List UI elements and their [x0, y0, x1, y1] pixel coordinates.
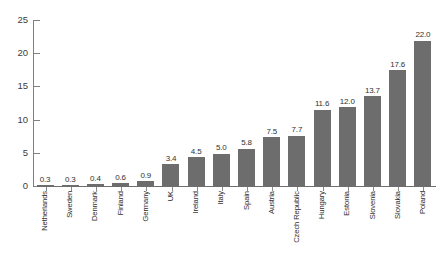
bar-value-label: 5.0 — [207, 143, 235, 152]
x-axis-category-label: Slovakia — [386, 191, 410, 261]
category-label-text: Estonia — [343, 191, 351, 216]
x-axis-category-label: Hungary — [310, 191, 334, 261]
x-axis-category-label: Austria — [260, 191, 284, 261]
bar[interactable] — [238, 149, 255, 188]
category-label-text: Germany — [142, 191, 150, 222]
bar-slot: 0.6 — [109, 21, 133, 187]
category-label-text: UK — [167, 191, 175, 201]
bar[interactable] — [314, 110, 331, 187]
bar-slot: 3.4 — [159, 21, 183, 187]
bar-value-label: 7.5 — [258, 127, 286, 136]
category-label-text: Italy — [217, 191, 225, 204]
x-axis-category-label: Poland — [411, 191, 435, 261]
bar-slot: 0.3 — [58, 21, 82, 187]
bar-value-label: 0.3 — [56, 175, 84, 184]
y-axis-tick-label: 0 — [6, 181, 28, 191]
bar-slot: 0.4 — [83, 21, 107, 187]
y-axis-tick-label: 10 — [6, 115, 28, 125]
bar-slot: 7.5 — [260, 21, 284, 187]
bar-value-label: 12.0 — [333, 97, 361, 106]
y-axis-tick-label: 20 — [6, 48, 28, 58]
category-label-text: Slovakia — [394, 191, 402, 219]
bar-value-label: 0.4 — [81, 174, 109, 183]
bar[interactable] — [188, 157, 205, 187]
x-axis-category-label: UK — [159, 191, 183, 261]
x-axis-category-label: Spain — [235, 191, 259, 261]
bar[interactable] — [213, 154, 230, 187]
bar-value-label: 7.7 — [283, 125, 311, 134]
bar-slot: 13.7 — [360, 21, 384, 187]
bar-slot: 7.7 — [285, 21, 309, 187]
bar-value-label: 5.8 — [233, 138, 261, 147]
bar-value-label: 13.7 — [358, 86, 386, 95]
bar-slot: 11.6 — [310, 21, 334, 187]
y-axis-tick-label: 5 — [6, 148, 28, 158]
bar[interactable] — [389, 70, 406, 187]
bar-value-label: 0.6 — [107, 173, 135, 182]
bar-value-label: 22.0 — [409, 30, 437, 39]
x-axis-category-label: Denmark — [83, 191, 107, 261]
bar-value-label: 17.6 — [384, 60, 412, 69]
bars-container: 0.30.30.40.60.93.44.55.05.87.57.711.612.… — [33, 20, 436, 187]
bar-slot: 5.0 — [209, 21, 233, 187]
x-axis-category-label: Czech Republic — [285, 191, 309, 261]
bar-slot: 0.3 — [33, 21, 57, 187]
bar-slot: 12.0 — [335, 21, 359, 187]
category-label-text: Finland — [117, 191, 125, 215]
category-label-text: Poland — [419, 191, 427, 214]
bar[interactable] — [162, 164, 179, 187]
bar[interactable] — [288, 136, 305, 187]
bar-chart: 0510152025 0.30.30.40.60.93.44.55.05.87.… — [0, 0, 442, 264]
category-label-text: Austria — [268, 191, 276, 214]
x-axis-category-label: Slovenia — [360, 191, 384, 261]
x-axis-category-label: Finland — [109, 191, 133, 261]
category-label-text: Spain — [243, 191, 251, 210]
x-axis-category-label: Ireland — [184, 191, 208, 261]
x-axis-category-label: Germany — [134, 191, 158, 261]
category-label-text: Denmark — [91, 191, 99, 221]
y-axis-tick-label: 15 — [6, 81, 28, 91]
bar-value-label: 3.4 — [157, 154, 185, 163]
x-axis-category-label: Italy — [209, 191, 233, 261]
bar-slot: 17.6 — [386, 21, 410, 187]
bar-slot: 5.8 — [235, 21, 259, 187]
y-axis-tick-label: 25 — [6, 15, 28, 25]
x-axis-category-labels: NetherlandsSwedenDenmarkFinlandGermanyUK… — [33, 191, 436, 263]
bar-value-label: 11.6 — [308, 99, 336, 108]
bar-slot: 22.0 — [411, 21, 435, 187]
category-label-text: Netherlands — [41, 191, 49, 231]
bar-slot: 4.5 — [184, 21, 208, 187]
bar[interactable] — [339, 107, 356, 187]
bar-value-label: 0.3 — [31, 175, 59, 184]
bar-value-label: 0.9 — [132, 171, 160, 180]
category-label-text: Czech Republic — [293, 191, 301, 243]
bar[interactable] — [364, 96, 381, 187]
x-axis-category-label: Estonia — [335, 191, 359, 261]
bar-value-label: 4.5 — [182, 147, 210, 156]
category-label-text: Sweden — [66, 191, 74, 218]
bar[interactable] — [263, 137, 280, 187]
category-label-text: Hungary — [318, 191, 326, 219]
category-label-text: Slovenia — [369, 191, 377, 219]
x-axis-category-label: Netherlands — [33, 191, 57, 261]
bar[interactable] — [414, 41, 431, 187]
category-label-text: Ireland — [192, 191, 200, 214]
x-axis-category-label: Sweden — [58, 191, 82, 261]
bar-slot: 0.9 — [134, 21, 158, 187]
